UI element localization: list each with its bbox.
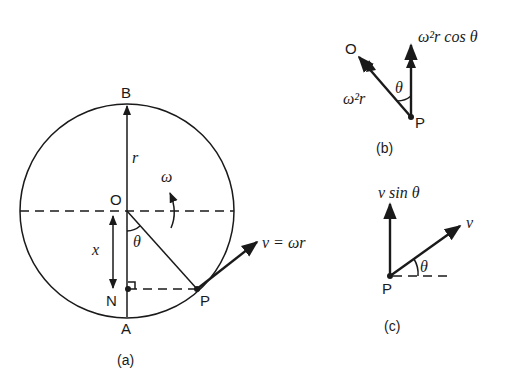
label-o: O [110, 191, 122, 208]
label-n: N [106, 292, 117, 309]
caption-a: (a) [117, 352, 134, 368]
label-omega: ω [161, 168, 172, 185]
shm-circular-motion-figure: B r O ω θ x N P A v = ωr (a) O ω²r cos θ… [0, 0, 518, 381]
label-theta-c: θ [420, 258, 428, 275]
label-p-c: P [382, 280, 392, 297]
label-o-b: O [345, 40, 357, 57]
point-p-c-dot [387, 273, 393, 279]
theta-arc-b [397, 96, 411, 101]
theta-arc-a [127, 226, 140, 231]
centripetal-second-head [366, 60, 376, 72]
label-velocity: v = ωr [262, 234, 306, 251]
label-component-b: ω²r cos θ [418, 28, 478, 45]
label-a: A [121, 320, 131, 337]
label-theta-b: θ [395, 79, 403, 96]
cos-component-second-head [406, 56, 416, 68]
label-r: r [132, 149, 139, 166]
panel-c: v sin θ v θ P (c) [378, 184, 474, 334]
label-v-c: v [466, 214, 474, 231]
label-theta-a: θ [133, 233, 141, 250]
caption-b: (b) [376, 140, 393, 156]
label-component-c: v sin θ [378, 184, 420, 201]
caption-c: (c) [384, 318, 400, 334]
label-p-a: P [200, 292, 210, 309]
panel-b: O ω²r cos θ θ ω²r P (b) [343, 28, 478, 156]
centripetal-vector [359, 57, 411, 117]
point-p-b-dot [408, 114, 414, 120]
label-p-b: P [415, 114, 425, 131]
label-b: B [121, 84, 131, 101]
label-centripetal: ω²r [343, 90, 366, 107]
label-x: x [91, 241, 99, 258]
panel-a: B r O ω θ x N P A v = ωr (a) [20, 84, 306, 368]
theta-arc-c [414, 259, 418, 276]
point-n-dot [125, 286, 131, 292]
radius-op [127, 211, 197, 289]
